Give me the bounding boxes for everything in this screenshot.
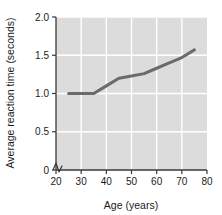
- tick-label-y: 0: [43, 165, 49, 176]
- tick-label-x: 40: [101, 176, 113, 187]
- chart-figure: 00.51.01.52.0 20304050607080 Age (years)…: [0, 0, 222, 215]
- tick-label-y: 0.5: [35, 126, 49, 137]
- tick-label-y: 2.0: [35, 12, 49, 23]
- tick-label-x: 80: [201, 176, 213, 187]
- tick-label-y: 1.5: [35, 50, 49, 61]
- x-axis-title: Age (years): [104, 199, 158, 211]
- tick-label-x: 20: [50, 176, 62, 187]
- tick-label-x: 60: [151, 176, 163, 187]
- y-axis-title: Average reaction time (seconds): [4, 18, 16, 169]
- tick-label-y: 1.0: [35, 88, 49, 99]
- tick-label-x: 50: [126, 176, 138, 187]
- tick-label-x: 70: [176, 176, 188, 187]
- reaction-time-line-chart: 00.51.01.52.0 20304050607080 Age (years)…: [0, 0, 222, 215]
- tick-label-x: 30: [76, 176, 88, 187]
